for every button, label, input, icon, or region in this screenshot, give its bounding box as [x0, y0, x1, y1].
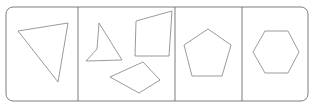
figure-root: [0, 0, 315, 108]
panel-quadrilaterals: [86, 11, 172, 93]
rotated-rectangle: [110, 62, 160, 93]
panel-triangle: [18, 23, 68, 82]
polygon-figure-canvas: [0, 0, 315, 108]
triangle: [18, 23, 68, 82]
quadrilateral-trapezoid: [135, 11, 172, 56]
outer-frame: [6, 7, 308, 101]
concave-quadrilateral-arrow: [86, 23, 122, 61]
panel-pentagon: [184, 29, 231, 76]
hexagon: [253, 31, 299, 73]
panel-hexagon: [253, 31, 299, 73]
pentagon: [184, 29, 231, 76]
